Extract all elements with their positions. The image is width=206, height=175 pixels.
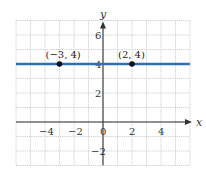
x-tick-label: 0 xyxy=(100,126,106,137)
x-tick-label: −2 xyxy=(68,126,83,137)
data-point-label: (−3, 4) xyxy=(46,49,81,60)
y-tick-label: −2 xyxy=(91,146,106,157)
y-axis-arrow-icon xyxy=(100,22,106,29)
x-tick-label: −4 xyxy=(39,126,54,137)
data-point xyxy=(57,61,63,67)
x-axis-arrow-icon xyxy=(185,119,192,125)
data-point-label: (2, 4) xyxy=(118,49,145,60)
data-point xyxy=(129,61,135,67)
y-tick-label: 6 xyxy=(95,30,101,41)
x-tick-label: 4 xyxy=(158,126,164,137)
y-tick-label: 2 xyxy=(95,88,101,99)
x-axis-label: x xyxy=(196,116,203,129)
graph-horizontal-line: xy−4−2024−2246(−3, 4)(2, 4) xyxy=(0,0,206,175)
x-tick-label: 2 xyxy=(129,126,135,137)
y-axis-label: y xyxy=(99,8,107,21)
